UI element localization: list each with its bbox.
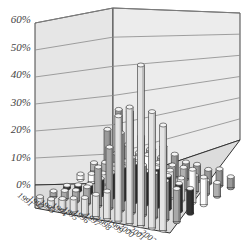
cylinder-bar: [104, 189, 111, 221]
y-tick-label: 50%: [1, 41, 31, 53]
cylinder-bar: [214, 180, 221, 198]
cylinder-bar: [200, 175, 207, 207]
cylinder-bar: [77, 172, 84, 182]
cylinder-bar: [187, 186, 194, 215]
y-tick-label: 30%: [1, 96, 31, 108]
chart-3d-cylinder: 0%10%20%30%40%50%60% 1991199219931994199…: [0, 0, 250, 235]
cylinder-bar: [126, 105, 133, 225]
cylinder-bar: [88, 171, 95, 183]
cylinder-bar: [137, 63, 144, 228]
cylinder-bar: [115, 114, 122, 223]
y-tick-label: 60%: [1, 13, 31, 25]
cylinder-bar: [149, 110, 156, 230]
y-tick-label: 20%: [1, 123, 31, 135]
y-tick-label: 10%: [1, 151, 31, 163]
y-tick-label: 40%: [1, 68, 31, 80]
cylinder-bar: [160, 123, 167, 232]
cylinder-bar: [173, 187, 180, 224]
y-tick-label: 0%: [1, 178, 31, 190]
cylinder-bar: [227, 175, 234, 190]
